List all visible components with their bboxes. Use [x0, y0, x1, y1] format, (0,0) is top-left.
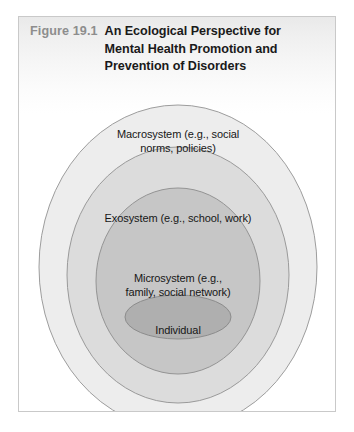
ring-ellipse-individual [125, 295, 231, 339]
nested-ellipses-svg [19, 17, 336, 412]
figure-container: Figure 19.1 An Ecological Perspective fo… [0, 0, 354, 432]
ring-ellipse-microsystem [96, 188, 260, 374]
ecological-model-diagram: Macrosystem (e.g., social norms, policie… [19, 17, 335, 411]
figure-frame: Figure 19.1 An Ecological Perspective fo… [18, 16, 336, 412]
